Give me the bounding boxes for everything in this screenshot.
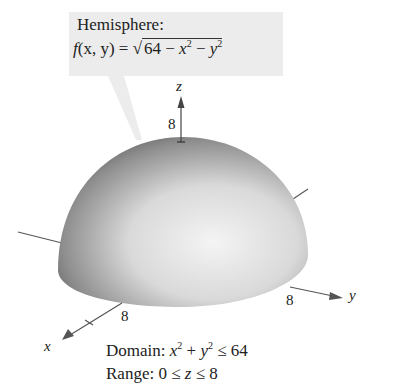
x-axis-tick-label: 8	[121, 308, 129, 325]
radicand-minus: −	[192, 39, 210, 58]
negative-y-axis-line	[18, 232, 62, 243]
domain-caption: Domain: x2 + y2 ≤ 64	[106, 341, 248, 361]
hemisphere-surface	[58, 137, 308, 307]
formula-args: (x, y) =	[78, 39, 133, 58]
sqrt-icon: √	[133, 39, 142, 58]
domain-prefix: Domain:	[106, 341, 170, 360]
domain-bound: ≤ 64	[213, 341, 248, 360]
x-axis-arrowhead	[62, 329, 74, 340]
radicand-y-exponent: 2	[217, 38, 222, 49]
y-axis-arrowhead	[329, 292, 343, 300]
range-upper: ≤ 8	[191, 364, 217, 383]
radicand-x: x	[179, 39, 187, 58]
hemisphere-formula: f(x, y) = √64 − x2 − y2	[73, 39, 222, 59]
radicand: 64 − x2 − y2	[142, 38, 222, 58]
callout-box: Hemisphere: f(x, y) = √64 − x2 − y2	[69, 12, 283, 76]
range-caption: Range: 0 ≤ z ≤ 8	[106, 364, 218, 384]
y-axis-line	[290, 287, 333, 296]
y-axis-tick-label: 8	[286, 292, 294, 309]
x-axis-line	[70, 303, 122, 335]
range-prefix: Range:	[106, 364, 158, 383]
z-axis-arrowhead	[178, 96, 185, 108]
x-axis-label: x	[44, 338, 51, 355]
domain-y: y	[200, 341, 208, 360]
callout-pointer	[108, 76, 142, 140]
z-axis-tick-label: 8	[168, 116, 176, 133]
range-lower: 0 ≤	[158, 364, 184, 383]
x-axis-tick	[85, 320, 93, 325]
hemisphere-figure: Hemisphere: f(x, y) = √64 − x2 − y2 z 8 …	[0, 0, 395, 389]
domain-plus: +	[182, 341, 200, 360]
y-axis-label: y	[349, 287, 356, 304]
z-axis-label: z	[176, 78, 182, 95]
callout-title: Hemisphere:	[77, 15, 164, 35]
radicand-constant: 64 −	[144, 39, 179, 58]
